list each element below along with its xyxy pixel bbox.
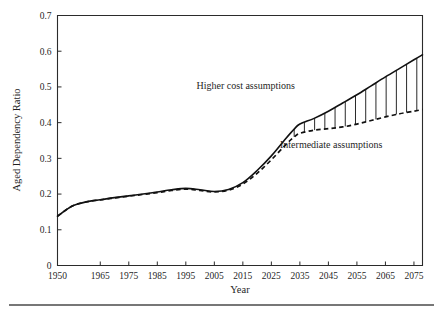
y-tick-label: 0.5 [40, 82, 52, 92]
x-tick-label: 1995 [176, 271, 195, 281]
x-tick-label: 2005 [205, 271, 224, 281]
x-tick-label: 2065 [376, 271, 395, 281]
y-tick-label: 0.7 [40, 11, 52, 21]
series-annotation-1: Intermediate assumptions [280, 139, 383, 150]
x-tick-label: 2025 [262, 271, 281, 281]
x-axis-tick-labels: 1950196519751985199520052015202520352045… [48, 271, 424, 281]
y-axis-ticks [58, 16, 62, 266]
x-tick-label: 1950 [48, 271, 67, 281]
x-tick-label: 2035 [290, 271, 309, 281]
y-tick-label: 0 [47, 261, 52, 271]
x-tick-label: 2075 [404, 271, 423, 281]
x-tick-label: 1965 [91, 271, 110, 281]
series-higher-cost-assumptions [58, 55, 423, 216]
y-axis-title: Aged Dependency Ratio [11, 88, 22, 191]
y-tick-label: 0.6 [40, 47, 52, 57]
y-tick-label: 0.4 [40, 118, 52, 128]
y-tick-label: 0.2 [40, 189, 52, 199]
series-annotation-0: Higher cost assumptions [197, 80, 295, 91]
x-tick-label: 1985 [148, 271, 167, 281]
x-axis-ticks [58, 262, 414, 266]
x-tick-label: 2055 [347, 271, 366, 281]
x-tick-label: 2015 [233, 271, 252, 281]
x-axis-title: Year [230, 284, 250, 295]
chart-figure: 00.10.20.30.40.50.60.7 19501965197519851… [0, 0, 443, 313]
series-intermediate-assumptions [58, 109, 423, 216]
x-tick-label: 1975 [119, 271, 138, 281]
series-annotations: Higher cost assumptionsIntermediate assu… [197, 80, 383, 150]
aged-dependency-ratio-chart: 00.10.20.30.40.50.60.7 19501965197519851… [0, 0, 443, 313]
y-tick-label: 0.1 [40, 225, 52, 235]
x-tick-label: 2045 [319, 271, 338, 281]
y-axis-tick-labels: 00.10.20.30.40.50.60.7 [40, 11, 52, 271]
y-tick-label: 0.3 [40, 154, 52, 164]
